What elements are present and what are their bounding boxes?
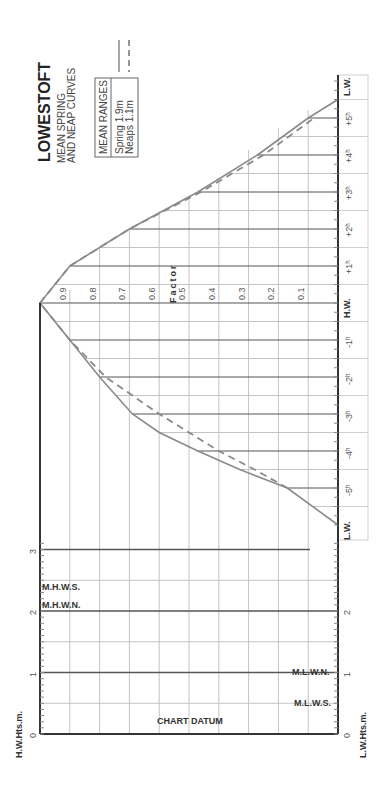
chart-datum-label: CHART DATUM — [157, 716, 223, 726]
time-tick-label: -2ʰ — [344, 374, 354, 385]
chart-title: LOWESTOFT — [36, 62, 54, 162]
lw-bottom-label: L.W. — [342, 522, 352, 541]
factor-tick-label: 0.3 — [237, 287, 247, 300]
time-tick-label: +5ʰ — [344, 112, 354, 126]
lw-height-tick-label: 1 — [342, 671, 352, 676]
mlws-label: M.L.W.S. — [294, 698, 331, 708]
time-tick-label: -3ʰ — [344, 411, 354, 422]
factor-tick-label: 0.7 — [117, 287, 127, 300]
lw-heights-axis-label: L.W.Hts.m. — [358, 712, 368, 758]
time-tick-label: -1ʰ — [344, 337, 354, 348]
hw-heights-axis-label: H.W.Hts.m. — [14, 711, 24, 758]
factor-gridlines — [70, 110, 308, 734]
factor-tick-label: 0.1 — [296, 287, 306, 300]
chart-subtitle-2: AND NEAP CURVES — [67, 68, 77, 163]
hw-label: H.W. — [342, 299, 352, 319]
factor-tick-label: 0.4 — [207, 287, 217, 300]
factor-tick-label: 0.9 — [58, 287, 68, 300]
time-tick-label: -4ʰ — [344, 448, 354, 459]
hw-height-tick-label: 0 — [28, 733, 38, 738]
factor-tick-label: 0.8 — [88, 287, 98, 300]
mlwn-label: M.L.W.N. — [292, 667, 330, 677]
time-tick-label: +3ʰ — [344, 186, 354, 200]
time-gridlines — [40, 100, 368, 507]
hw-height-tick-label: 1 — [28, 671, 38, 676]
time-tick-label: -5ʰ — [344, 485, 354, 496]
mhws-label: M.H.W.S. — [42, 582, 80, 592]
mhwn-label: M.H.W.N. — [42, 600, 81, 610]
lw-height-tick-label: 0 — [342, 733, 352, 738]
lw-height-tick-label: 2 — [342, 610, 352, 615]
hw-height-tick-label: 3 — [28, 548, 38, 553]
mean-ranges-title: MEAN RANGES — [98, 80, 109, 154]
time-tick-label: +2ʰ — [344, 223, 354, 237]
hw-height-tick-label: 2 — [28, 610, 38, 615]
factor-tick-label: 0.5 — [177, 287, 187, 300]
time-tick-label: +1ʰ — [344, 260, 354, 274]
lw-top-label: L.W. — [342, 78, 352, 97]
time-tick-label: +4ʰ — [344, 149, 354, 163]
factor-tick-label: 0.2 — [266, 287, 276, 300]
factor-tick-label: 0.6 — [147, 287, 157, 300]
legend-neaps-label: Neaps 1.1m — [124, 100, 135, 154]
